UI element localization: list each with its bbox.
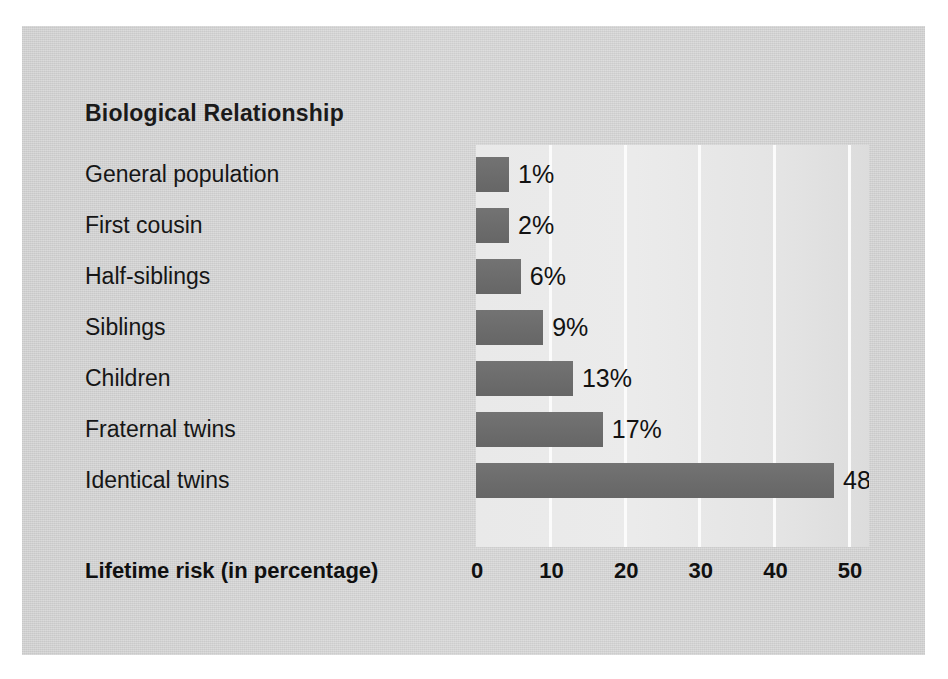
- bar: [476, 259, 521, 294]
- bar-value-label: 9%: [543, 310, 588, 345]
- bar-row: 48%: [476, 455, 869, 506]
- x-tick-label-50: 50: [838, 558, 862, 584]
- x-axis-title: Lifetime risk (in percentage): [85, 558, 378, 584]
- bar-value-label: 6%: [521, 259, 566, 294]
- bar: [476, 208, 509, 243]
- bar: [476, 463, 834, 498]
- plot-area: 1%2%6%9%13%17%48%: [476, 145, 869, 547]
- bar-row: 17%: [476, 404, 869, 455]
- bar: [476, 412, 603, 447]
- bar-row: 6%: [476, 251, 869, 302]
- x-tick-label-40: 40: [763, 558, 787, 584]
- bar-value-label: 1%: [509, 157, 554, 192]
- category-label: General population: [85, 157, 465, 192]
- category-label: First cousin: [85, 208, 465, 243]
- bar: [476, 361, 573, 396]
- x-tick-label-20: 20: [614, 558, 638, 584]
- bar-value-label: 13%: [573, 361, 632, 396]
- category-label: Siblings: [85, 310, 465, 345]
- category-label: Fraternal twins: [85, 412, 465, 447]
- bar-row: 9%: [476, 302, 869, 353]
- category-label: Children: [85, 361, 465, 396]
- x-tick-label-10: 10: [539, 558, 563, 584]
- category-label: Identical twins: [85, 463, 465, 498]
- bar: [476, 157, 509, 192]
- bar-row: 2%: [476, 200, 869, 251]
- bar: [476, 310, 543, 345]
- bar-row: 1%: [476, 149, 869, 200]
- bar-value-label: 48%: [834, 463, 869, 498]
- page-title: Biological Relationship: [85, 100, 344, 127]
- bar-value-label: 2%: [509, 208, 554, 243]
- x-tick-label-30: 30: [689, 558, 713, 584]
- category-label: Half-siblings: [85, 259, 465, 294]
- bar-row: 13%: [476, 353, 869, 404]
- figure: Biological Relationship 1%2%6%9%13%17%48…: [0, 0, 948, 679]
- bar-value-label: 17%: [603, 412, 662, 447]
- x-tick-label-0: 0: [471, 558, 483, 584]
